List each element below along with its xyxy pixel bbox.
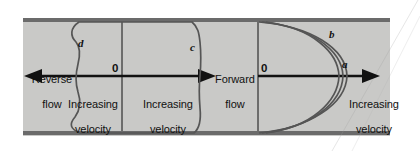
increasing-velocity-forward-line1: Increasing: [349, 98, 399, 110]
right-horizontal-axis-arrow: [258, 69, 380, 83]
right-zero-label: 0: [261, 62, 267, 74]
curve-marker-a: a: [342, 59, 348, 70]
increasing-velocity-forward-line2: velocity: [356, 123, 392, 135]
increasing-velocity-label-center: Increasing velocity: [128, 85, 196, 148]
forward-flow-label-line2: flow: [225, 98, 244, 110]
forward-flow-label: Forward flow: [203, 60, 255, 123]
reverse-flow-label-line1: Reverse: [32, 73, 72, 85]
curve-marker-b: b: [329, 29, 335, 40]
forward-flow-label-line1: Forward: [215, 73, 255, 85]
velocity-profile-figure: Reverse flow 0 Increasing velocity Incre…: [0, 0, 420, 151]
increasing-velocity-label-reverse: Increasing velocity: [53, 85, 121, 148]
increasing-velocity-center-line1: Increasing: [143, 98, 193, 110]
increasing-velocity-reverse-line2: velocity: [75, 123, 111, 135]
increasing-velocity-center-line2: velocity: [150, 123, 186, 135]
curve-marker-d: d: [78, 38, 84, 49]
left-zero-label: 0: [112, 62, 118, 74]
increasing-velocity-label-forward: Increasing velocity: [334, 85, 402, 148]
curve-marker-c: c: [190, 42, 195, 53]
increasing-velocity-reverse-line1: Increasing: [68, 98, 118, 110]
